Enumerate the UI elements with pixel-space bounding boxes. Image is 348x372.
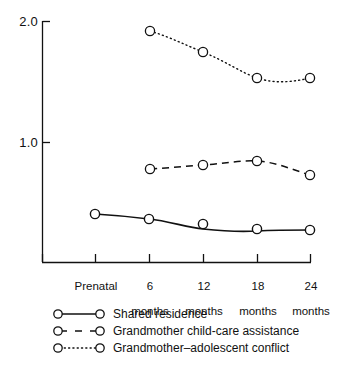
conflict-point-6: [145, 26, 154, 35]
shared-residence-point-12: [198, 219, 207, 228]
conflict-point-18: [252, 73, 261, 82]
legend-item-grandmother-child-care-assistance: Grandmother child-care assistance: [52, 322, 342, 339]
childcare-point-18: [252, 156, 261, 165]
axes-group: [42, 21, 311, 263]
childcare-point-6: [145, 164, 154, 173]
legend-item-grandmother-adolescent-conflict: Grandmother–adolescent conflict: [52, 339, 342, 356]
legend-label-grandmother-child-care-assistance: Grandmother child-care assistance: [113, 324, 299, 338]
series-shared-residence: [90, 209, 314, 234]
legend-sample-dotted: [52, 341, 106, 355]
conflict-point-12: [198, 47, 207, 56]
y-tick-label-1: 1.0: [4, 135, 38, 150]
shared-residence-point-6: [144, 214, 153, 223]
shared-residence-point-18: [252, 224, 261, 233]
childcare-point-24: [305, 170, 314, 179]
legend-label-grandmother-adolescent-conflict: Grandmother–adolescent conflict: [113, 341, 289, 355]
childcare-point-12: [198, 160, 207, 169]
series-grandmother-adolescent-conflict: [145, 26, 314, 82]
shared-residence-point-prenatal: [90, 209, 99, 218]
x-tick-label-24-line1: 24: [278, 280, 344, 293]
chart-legend: Shared residence Grandmother child-care …: [52, 305, 342, 356]
legend-sample-dashed: [52, 324, 106, 338]
legend-label-shared-residence: Shared residence: [113, 307, 207, 321]
legend-item-shared-residence: Shared residence: [52, 305, 342, 322]
legend-sample-solid: [52, 307, 106, 321]
childcare-line: [150, 161, 310, 175]
y-tick-label-2: 2.0: [4, 14, 38, 29]
conflict-point-24: [305, 73, 314, 82]
shared-residence-point-24: [305, 225, 314, 234]
x-tick-label-prenatal-line1: Prenatal: [75, 280, 118, 292]
chart-figure: 2.0 1.0 Prenatal 6 months 12 months 18 m…: [0, 0, 348, 372]
conflict-line: [150, 31, 310, 82]
series-grandmother-child-care-assistance: [145, 156, 314, 179]
